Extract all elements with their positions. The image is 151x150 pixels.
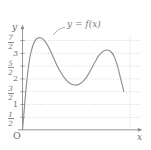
fraction-denominator: 2 (5, 120, 16, 127)
fraction-numerator: 1 (5, 111, 16, 118)
y-tick-label-1-2: 1 2 (5, 111, 16, 127)
fraction-numerator: 7 (5, 34, 16, 41)
fraction-numerator: 5 (5, 60, 16, 67)
y-axis-arrow (21, 25, 25, 30)
y-tick-label-2: 2 (8, 75, 18, 83)
curve-annotation-label: y = f(x) (67, 20, 101, 29)
chart-figure: y x O 7 2 3 5 2 2 3 2 1 1 2 y = f(x) (0, 0, 151, 150)
y-axis-label: y (12, 23, 17, 32)
x-axis-label: x (137, 133, 142, 142)
y-tick-label-1: 1 (8, 101, 18, 109)
label-leader-line (53, 27, 65, 35)
fraction-numerator: 3 (5, 85, 16, 92)
function-curve (23, 38, 124, 130)
y-tick-label-3: 3 (8, 50, 18, 58)
origin-label: O (13, 131, 21, 141)
grid-lines (22, 41, 140, 118)
y-tick-label-7-2: 7 2 (5, 34, 16, 50)
